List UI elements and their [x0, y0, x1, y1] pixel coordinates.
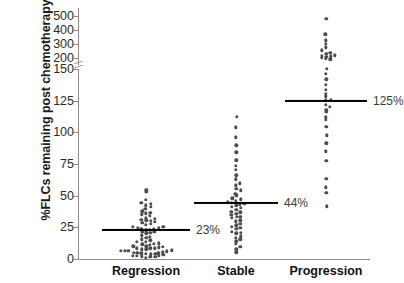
- data-point: [144, 252, 147, 255]
- data-point: [325, 159, 328, 162]
- data-point: [328, 58, 331, 61]
- data-point: [235, 227, 238, 230]
- data-point: [123, 249, 126, 252]
- y-tick-mark: [73, 132, 78, 133]
- data-point: [235, 187, 238, 190]
- data-point: [149, 205, 152, 208]
- data-point: [234, 168, 237, 171]
- y-tick-mark: [73, 30, 78, 31]
- data-point: [149, 222, 152, 225]
- data-point: [140, 238, 143, 241]
- data-point: [157, 241, 160, 244]
- data-point: [153, 247, 156, 250]
- y-axis-spine-upper: [78, 8, 79, 65]
- data-point: [320, 48, 323, 51]
- data-point: [144, 223, 147, 226]
- x-axis-group-label: Stable: [217, 264, 255, 278]
- data-point: [162, 225, 165, 228]
- data-point: [161, 245, 164, 248]
- y-tick-label: 400: [53, 23, 74, 37]
- data-point: [324, 150, 327, 153]
- data-point: [239, 226, 242, 229]
- median-value-label: 23%: [196, 223, 220, 237]
- data-point: [144, 247, 147, 250]
- data-point: [325, 204, 328, 207]
- data-point: [324, 185, 327, 188]
- y-tick-mark: [73, 227, 78, 228]
- data-point: [140, 243, 143, 246]
- data-point: [234, 242, 237, 245]
- y-tick-label: 125: [53, 94, 74, 108]
- data-point: [140, 201, 143, 204]
- data-point: [140, 213, 143, 216]
- data-point: [230, 216, 233, 219]
- data-point: [149, 231, 152, 234]
- y-tick-mark: [73, 259, 78, 260]
- data-point: [235, 232, 238, 235]
- data-point: [325, 177, 328, 180]
- data-point: [324, 110, 327, 113]
- data-point: [238, 181, 241, 184]
- data-point: [239, 206, 242, 209]
- data-point: [153, 220, 156, 223]
- data-point: [235, 250, 238, 253]
- median-value-label: 44%: [284, 196, 308, 210]
- y-tick-mark: [73, 16, 78, 17]
- data-point: [239, 198, 242, 201]
- data-point: [324, 33, 327, 36]
- data-point: [234, 126, 237, 129]
- x-axis-group-label: Regression: [112, 264, 180, 278]
- data-point: [235, 194, 238, 197]
- data-point: [230, 225, 233, 228]
- data-point: [131, 225, 134, 228]
- data-point: [140, 221, 143, 224]
- y-tick-mark: [73, 69, 78, 70]
- data-point: [135, 247, 138, 250]
- data-point: [135, 240, 138, 243]
- data-point: [328, 105, 331, 108]
- data-point: [324, 77, 327, 80]
- data-point: [234, 220, 237, 223]
- y-tick-label: 50: [60, 189, 74, 203]
- data-point: [127, 249, 130, 252]
- median-line: [285, 100, 367, 102]
- data-point: [238, 245, 241, 248]
- data-point: [152, 242, 155, 245]
- data-point: [234, 135, 237, 138]
- data-point: [239, 211, 242, 214]
- data-point: [234, 159, 237, 162]
- data-point: [238, 237, 241, 240]
- data-point: [325, 125, 328, 128]
- data-point: [234, 164, 237, 167]
- data-point: [162, 253, 165, 256]
- data-point: [149, 246, 152, 249]
- data-point: [145, 190, 148, 193]
- data-point: [165, 250, 168, 253]
- y-tick-mark: [73, 44, 78, 45]
- data-point: [234, 151, 237, 154]
- data-point: [140, 234, 143, 237]
- data-point: [235, 115, 238, 118]
- data-point: [144, 207, 147, 210]
- data-point: [324, 103, 327, 106]
- y-tick-mark: [73, 196, 78, 197]
- data-point: [239, 189, 242, 192]
- y-tick-label: 25: [60, 220, 74, 234]
- data-point: [324, 83, 327, 86]
- data-point: [235, 144, 238, 147]
- data-point: [234, 178, 237, 181]
- median-line: [194, 202, 278, 204]
- y-axis-tick-labels: 0255075100125150200300400500: [0, 8, 74, 253]
- data-point: [325, 17, 328, 20]
- data-point: [144, 198, 147, 201]
- data-point: [325, 134, 328, 137]
- data-point: [324, 191, 327, 194]
- data-point: [170, 249, 173, 252]
- data-point: [135, 254, 138, 257]
- data-point: [148, 214, 151, 217]
- data-point: [324, 57, 327, 60]
- data-point: [324, 141, 327, 144]
- data-point: [157, 254, 160, 257]
- y-tick-mark: [73, 58, 78, 59]
